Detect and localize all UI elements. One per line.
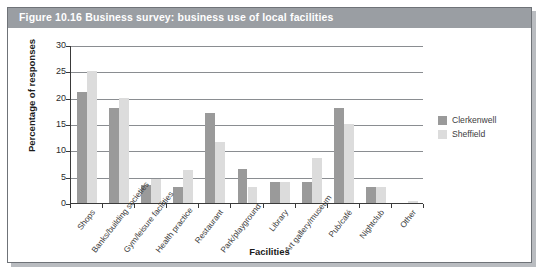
bar-group: [109, 46, 129, 203]
bar-sheffield: [312, 158, 322, 203]
bar-group: [398, 46, 418, 203]
chart-legend: ClerkenwellSheffield: [438, 114, 496, 142]
legend-item: Sheffield: [438, 128, 496, 140]
bar-sheffield: [119, 98, 129, 203]
bar-group: [77, 46, 97, 203]
bar-group: [238, 46, 258, 203]
bar-sheffield: [280, 182, 290, 203]
figure-frame: Figure 10.16 Business survey: business u…: [7, 7, 532, 263]
legend-label: Clerkenwell: [452, 115, 496, 125]
legend-swatch-icon: [438, 130, 447, 139]
bar-group: [334, 46, 354, 203]
y-tick-label: 25: [42, 67, 66, 76]
legend-item: Clerkenwell: [438, 114, 496, 126]
bar-group: [173, 46, 193, 203]
bar-clerkenwell: [270, 182, 280, 203]
y-tick-label: 20: [42, 94, 66, 103]
chart-axes-box: [70, 46, 423, 204]
bar-sheffield: [344, 124, 354, 203]
legend-swatch-icon: [438, 116, 447, 125]
bar-clerkenwell: [334, 108, 344, 203]
figure-title-bar: Figure 10.16 Business survey: business u…: [8, 8, 531, 28]
x-axis-title: Facilities: [8, 246, 531, 257]
bar-sheffield: [87, 71, 97, 203]
bar-group: [141, 46, 161, 203]
bar-sheffield: [183, 170, 193, 203]
figure-title: Figure 10.16 Business survey: business u…: [19, 11, 334, 23]
bar-sheffield: [248, 187, 258, 203]
legend-label: Sheffield: [452, 129, 485, 139]
bar-sheffield: [215, 142, 225, 203]
bar-clerkenwell: [366, 187, 376, 203]
y-tick-label: 30: [42, 41, 66, 50]
bar-clerkenwell: [205, 113, 215, 203]
y-tick-label: 0: [42, 199, 66, 208]
y-tick-label: 5: [42, 173, 66, 182]
bar-group: [302, 46, 322, 203]
y-tick-label: 10: [42, 146, 66, 155]
bar-group: [366, 46, 386, 203]
bar-clerkenwell: [302, 182, 312, 203]
bar-group: [205, 46, 225, 203]
bar-clerkenwell: [238, 169, 248, 203]
bars-layer: [71, 46, 423, 203]
y-tick-label: 15: [42, 120, 66, 129]
bar-sheffield: [376, 187, 386, 203]
bar-clerkenwell: [109, 108, 119, 203]
bar-group: [270, 46, 290, 203]
bar-clerkenwell: [77, 92, 87, 203]
y-axis-ticks: 302520151050: [20, 28, 66, 228]
x-tick-mark: [423, 204, 424, 208]
bar-sheffield: [408, 201, 418, 203]
chart-plot-region: Percentage of responses 302520151050 Sho…: [8, 28, 531, 264]
